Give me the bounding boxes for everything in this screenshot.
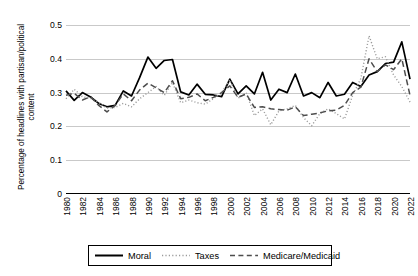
x-axis-tick-label: 1988	[128, 197, 138, 216]
legend-label: Medicare/Medicaid	[263, 251, 340, 261]
series-line-moral	[66, 42, 410, 107]
x-axis-tick-label: 1982	[78, 197, 88, 216]
y-axis-tick-label: 0.1	[22, 155, 62, 165]
series-line-medicare-medicaid	[66, 59, 410, 116]
y-axis-tick-label: 0.3	[22, 88, 62, 98]
legend-label: Taxes	[195, 251, 219, 261]
x-axis-line	[66, 193, 410, 194]
x-axis-tick-label: 1994	[177, 197, 187, 216]
legend-swatch-dotted	[161, 251, 191, 260]
x-axis-tick-label: 1998	[209, 197, 219, 216]
y-axis-tick-labels: 00.10.20.30.40.5	[22, 25, 62, 194]
x-axis-tick-label: 2014	[340, 197, 350, 216]
legend-label: Moral	[128, 251, 151, 261]
x-axis-tick-label: 2000	[226, 197, 236, 216]
x-axis-tick-label: 1992	[160, 197, 170, 216]
x-axis-tick-label: 2002	[242, 197, 252, 216]
series-lines	[66, 25, 410, 194]
x-axis-tick-label: 2022	[406, 197, 416, 216]
y-axis-tick-label: 0	[22, 189, 62, 199]
chart-figure: Percentage of headlines with partisan/po…	[0, 0, 418, 276]
x-axis-tick-label: 1980	[62, 197, 72, 216]
plot-area	[66, 25, 410, 194]
legend-swatch-solid	[94, 251, 124, 260]
x-axis-tick-label: 2012	[324, 197, 334, 216]
x-axis-tick-label: 1990	[144, 197, 154, 216]
y-axis-tick-label: 0.2	[22, 121, 62, 131]
x-axis-tick-label: 2008	[291, 197, 301, 216]
x-axis-tick-label: 2004	[259, 197, 269, 216]
y-axis-tick-label: 0.4	[22, 54, 62, 64]
chart-legend: MoralTaxesMedicare/Medicaid	[88, 245, 332, 266]
x-axis-tick-label: 1986	[111, 197, 121, 216]
x-axis-tick-label: 2020	[390, 197, 400, 216]
x-axis-tick-label: 2010	[308, 197, 318, 216]
x-axis-tick-labels: 1980198219841986198819901992199419961998…	[66, 197, 410, 245]
series-line-taxes	[66, 36, 410, 126]
legend-swatch-dashed	[229, 251, 259, 260]
legend-item-moral[interactable]: Moral	[89, 251, 156, 261]
x-axis-tick-label: 2006	[275, 197, 285, 216]
y-axis-tick-label: 0.5	[22, 20, 62, 30]
x-axis-tick-label: 1984	[95, 197, 105, 216]
x-axis-tick-label: 2016	[357, 197, 367, 216]
x-axis-tick-label: 2018	[373, 197, 383, 216]
legend-item-taxes[interactable]: Taxes	[156, 251, 224, 261]
legend-item-medicare-medicaid[interactable]: Medicare/Medicaid	[224, 251, 345, 261]
x-axis-tick-label: 1996	[193, 197, 203, 216]
